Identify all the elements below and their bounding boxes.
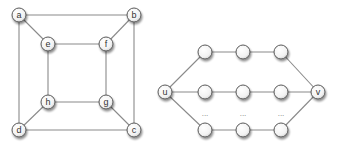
node-circle [236, 85, 250, 99]
diagram-canvas: ......... abcdefghuv [0, 0, 341, 150]
node-p1b [236, 45, 250, 59]
node-label: u [162, 87, 167, 97]
node-p1c [274, 45, 288, 59]
edges-layer [19, 15, 318, 130]
node-p2b [236, 85, 250, 99]
node-b: b [127, 8, 141, 22]
node-label: v [316, 87, 321, 97]
node-label: a [16, 10, 21, 20]
cube-graph-edges [19, 15, 134, 130]
edge-p1c-v [281, 52, 318, 92]
ellipsis-marker: ... [278, 109, 285, 118]
node-circle [236, 123, 250, 137]
node-f: f [99, 37, 113, 51]
edge-p3c-v [281, 92, 318, 130]
node-p3c [274, 123, 288, 137]
ellipsis-layer: ......... [202, 109, 285, 118]
node-p3b [236, 123, 250, 137]
node-p2a [198, 85, 212, 99]
node-label: e [45, 39, 50, 49]
node-circle [198, 123, 212, 137]
node-e: e [41, 37, 55, 51]
node-label: b [131, 10, 136, 20]
node-circle [274, 45, 288, 59]
node-c: c [127, 123, 141, 137]
parallel-paths-graph-nodes: uv [158, 45, 325, 137]
node-g: g [99, 95, 113, 109]
node-h: h [41, 95, 55, 109]
node-a: a [12, 8, 26, 22]
node-v: v [311, 85, 325, 99]
node-label: d [16, 125, 21, 135]
node-p1a [198, 45, 212, 59]
node-p3a [198, 123, 212, 137]
ellipsis-marker: ... [202, 109, 209, 118]
node-u: u [158, 85, 172, 99]
ellipsis-marker: ... [240, 109, 247, 118]
node-label: g [103, 97, 108, 107]
node-label: h [45, 97, 50, 107]
node-circle [198, 45, 212, 59]
node-circle [198, 85, 212, 99]
node-circle [236, 45, 250, 59]
node-d: d [12, 123, 26, 137]
node-circle [274, 85, 288, 99]
edge-u-p1a [165, 52, 205, 92]
edge-u-p3a [165, 92, 205, 130]
node-circle [274, 123, 288, 137]
node-label: c [132, 125, 137, 135]
node-p2c [274, 85, 288, 99]
